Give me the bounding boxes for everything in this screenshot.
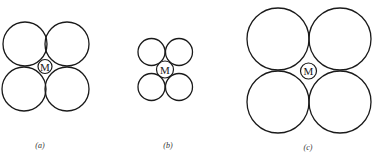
large-circle-bottom-right — [166, 74, 193, 101]
center-label: M — [160, 64, 170, 76]
center-label: M — [304, 65, 314, 77]
large-circle-bottom-right — [45, 67, 89, 111]
caption-a: (a) — [35, 141, 45, 150]
large-circle-bottom-right — [309, 71, 371, 133]
large-circle-top-right — [45, 22, 89, 66]
caption-b: (b) — [163, 141, 173, 150]
large-circle-bottom-left — [247, 71, 309, 133]
panel-a: M (a) — [2, 22, 89, 150]
center-label: M — [40, 61, 50, 73]
large-circle-top-right — [166, 39, 193, 66]
packing-diagram: M (a) M (b) M (c) — [0, 0, 372, 156]
large-circle-top-left — [3, 22, 47, 66]
large-circle-top-left — [247, 8, 309, 70]
panel-b: M (b) — [138, 39, 193, 151]
large-circle-bottom-left — [2, 67, 46, 111]
large-circle-top-right — [309, 8, 371, 70]
caption-c: (c) — [304, 143, 313, 152]
panel-c: M (c) — [247, 8, 371, 152]
